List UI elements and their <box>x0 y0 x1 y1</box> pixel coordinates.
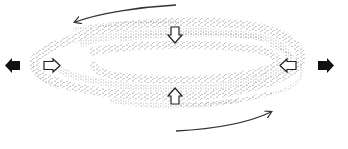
diagram-canvas: Stippled elliptical band with compressio… <box>0 0 348 149</box>
stippled-band <box>33 21 302 106</box>
bottom-rotation-arrow-icon <box>176 112 271 131</box>
left-outward-arrow-icon <box>5 58 20 73</box>
right-outward-arrow-icon <box>318 58 334 73</box>
